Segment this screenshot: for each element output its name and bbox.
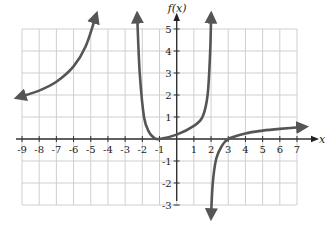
- x-tick-label: -3: [120, 144, 130, 155]
- curve-right-branch: [211, 127, 304, 216]
- x-tick-label: 5: [259, 144, 265, 155]
- y-tick-label: -3: [162, 200, 172, 211]
- x-tick-label: 6: [277, 144, 283, 155]
- curve-left-branch: [19, 16, 96, 97]
- x-tick-label: -4: [103, 144, 113, 155]
- y-tick-label: 5: [165, 24, 171, 35]
- x-tick-label: 4: [242, 144, 248, 155]
- x-tick-label: -2: [137, 144, 147, 155]
- curve-middle-branch: [137, 16, 211, 139]
- x-tick-label: 1: [191, 144, 197, 155]
- function-graph: -9-8-7-6-5-4-3-2-1123456754321-1-2-3 x f…: [0, 0, 334, 226]
- y-tick-label: 4: [165, 46, 171, 57]
- y-tick-label: 2: [165, 90, 171, 101]
- x-tick-label: 7: [294, 144, 300, 155]
- x-tick-label: -8: [34, 144, 44, 155]
- y-axis-label: f(x): [167, 2, 187, 15]
- x-tick-label: 3: [225, 144, 231, 155]
- grid-lines: [22, 29, 297, 205]
- y-tick-label: 1: [165, 112, 171, 123]
- y-tick-label: -2: [162, 178, 172, 189]
- x-tick-label: -7: [52, 144, 62, 155]
- x-tick-label: -1: [155, 144, 165, 155]
- x-tick-label: -6: [69, 144, 79, 155]
- x-tick-label: -5: [86, 144, 96, 155]
- y-tick-label: 3: [165, 68, 171, 79]
- y-tick-label: -1: [162, 156, 172, 167]
- x-tick-label: 2: [208, 144, 214, 155]
- x-axis-label: x: [319, 133, 326, 146]
- x-tick-label: -9: [17, 144, 27, 155]
